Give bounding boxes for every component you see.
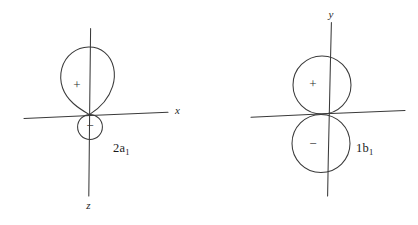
diagram-2a1: + − x z bbox=[24, 29, 180, 211]
z-axis-line bbox=[89, 29, 91, 197]
y-axis-line bbox=[328, 23, 332, 197]
orbital-label-2a1-sub: 1 bbox=[125, 147, 129, 157]
orbital-label-2a1-main: 2a bbox=[113, 141, 125, 155]
upper-lobe-outline bbox=[293, 56, 351, 114]
diagram-1b1: + − y bbox=[251, 8, 405, 196]
y-axis-label: y bbox=[328, 8, 334, 20]
x-axis-line bbox=[24, 112, 168, 118]
lower-lobe-sign: − bbox=[309, 136, 316, 151]
upper-lobe-sign: + bbox=[73, 77, 80, 92]
orbital-label-1b1: 1b1 bbox=[356, 141, 373, 156]
lower-lobe-outline bbox=[292, 115, 350, 173]
x-axis-label: x bbox=[174, 104, 180, 116]
upper-lobe-outline bbox=[61, 47, 115, 115]
orbital-diagram-svg: + − x z + − y bbox=[0, 0, 418, 225]
lower-lobe-sign: − bbox=[86, 118, 93, 133]
z-axis-label: z bbox=[85, 199, 91, 211]
orbital-label-1b1-main: 1b bbox=[356, 141, 369, 155]
orbital-label-2a1: 2a1 bbox=[113, 141, 130, 156]
figure-canvas: + − x z + − y 2a1 bbox=[0, 0, 418, 225]
upper-lobe-sign: + bbox=[309, 76, 316, 91]
orbital-label-1b1-sub: 1 bbox=[369, 147, 373, 157]
